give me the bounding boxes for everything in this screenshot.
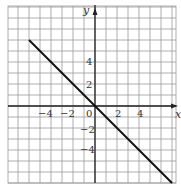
- y-tick-4: 4: [86, 56, 92, 67]
- x-tick-2: 2: [115, 108, 121, 119]
- x-tick-4: 4: [137, 108, 143, 119]
- x-axis-label: x: [175, 108, 181, 121]
- y-tick-neg4: −4: [80, 144, 95, 155]
- y-tick-neg2: −2: [80, 124, 95, 135]
- y-tick-2: 2: [86, 79, 92, 90]
- x-tick-neg2: −2: [60, 108, 75, 119]
- y-axis-label: y: [82, 4, 90, 17]
- graph: y x −4 −2 0 2 4 4 2 −2 −4: [0, 0, 181, 191]
- grid-lines: [8, 6, 176, 183]
- y-axis-arrow-icon: [93, 8, 98, 15]
- origin-label: 0: [86, 108, 92, 119]
- x-tick-neg4: −4: [38, 108, 53, 119]
